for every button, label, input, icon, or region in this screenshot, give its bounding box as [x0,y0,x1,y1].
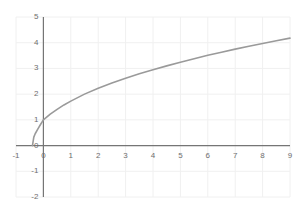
vertical-gridlines [16,17,290,197]
x-tick-label: 5 [170,151,190,160]
y-tick-label: -2 [0,192,38,201]
plot-area [0,0,295,213]
x-tick-label: 9 [280,151,295,160]
y-tick-label: 4 [0,38,38,47]
y-tick-label: 5 [0,12,38,21]
y-tick-label: 1 [0,115,38,124]
x-tick-label: 0 [33,151,53,160]
x-tick-label: 4 [143,151,163,160]
y-tick-label: -1 [0,166,38,175]
x-tick-label: 7 [225,151,245,160]
y-tick-label: 2 [0,89,38,98]
chart-container: -2-1012345 -10123456789 [0,0,295,213]
x-tick-label: 6 [198,151,218,160]
x-tick-label: 8 [253,151,273,160]
x-tick-label: 2 [88,151,108,160]
x-tick-label: 3 [116,151,136,160]
x-tick-label: -1 [6,151,26,160]
x-tick-label: 1 [61,151,81,160]
y-tick-label: 0 [0,141,38,150]
y-tick-label: 3 [0,63,38,72]
